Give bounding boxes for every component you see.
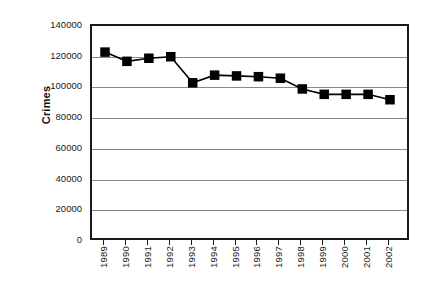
x-axis-tick — [147, 240, 148, 245]
x-axis-tick — [300, 240, 301, 245]
data-point-marker — [276, 73, 286, 83]
data-point-marker — [363, 90, 373, 100]
y-axis-tick-label: 0 — [30, 234, 82, 245]
y-axis-tick-label: 40000 — [30, 172, 82, 183]
y-axis-tick-label: 100000 — [30, 80, 82, 91]
plot-area — [90, 24, 409, 239]
x-axis-tick — [125, 240, 126, 245]
y-axis-tick-label: 60000 — [30, 141, 82, 152]
x-axis-tick-label: 2002 — [383, 246, 417, 268]
x-axis-tick — [103, 240, 104, 245]
data-point-marker — [341, 90, 351, 100]
crimes-line-chart: Crimes 020000400006000080000100000120000… — [0, 0, 431, 286]
data-point-marker — [166, 52, 176, 62]
x-axis-ticks — [90, 240, 409, 245]
data-point-marker — [144, 54, 154, 64]
data-point-marker — [100, 47, 110, 57]
data-point-marker — [232, 71, 242, 81]
data-point-marker — [188, 78, 198, 88]
data-point-marker — [298, 84, 308, 94]
data-point-marker — [122, 57, 132, 67]
data-point-marker — [254, 72, 264, 82]
data-point-marker — [385, 95, 395, 105]
x-axis-tick — [278, 240, 279, 245]
data-point-marker — [210, 70, 220, 80]
x-axis-tick — [388, 240, 389, 245]
x-axis-tick — [235, 240, 236, 245]
y-axis-tick-label: 120000 — [30, 49, 82, 60]
x-axis-tick-labels: 1989199019911992199319941995199619971998… — [90, 246, 409, 284]
x-axis-tick — [366, 240, 367, 245]
x-axis-tick — [256, 240, 257, 245]
data-point-marker — [319, 90, 329, 100]
data-series-svg — [92, 26, 411, 241]
x-axis-tick — [322, 240, 323, 245]
x-axis-tick — [169, 240, 170, 245]
x-axis-tick — [191, 240, 192, 245]
x-axis-tick — [213, 240, 214, 245]
y-axis-tick-label: 140000 — [30, 19, 82, 30]
y-axis-tick-label: 20000 — [30, 203, 82, 214]
y-axis-tick-label: 80000 — [30, 111, 82, 122]
x-axis-tick — [344, 240, 345, 245]
y-axis-tick-labels: 020000400006000080000100000120000140000 — [34, 24, 86, 239]
